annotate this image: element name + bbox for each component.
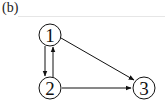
directed-graph: 1 2 3 [0, 0, 165, 104]
edge-1-to-3 [61, 38, 134, 80]
node-3-label: 3 [139, 78, 149, 99]
node-2: 2 [39, 77, 61, 99]
node-1-label: 1 [45, 25, 55, 46]
node-1: 1 [39, 24, 61, 46]
node-2-label: 2 [45, 78, 55, 99]
node-3: 3 [133, 77, 155, 99]
